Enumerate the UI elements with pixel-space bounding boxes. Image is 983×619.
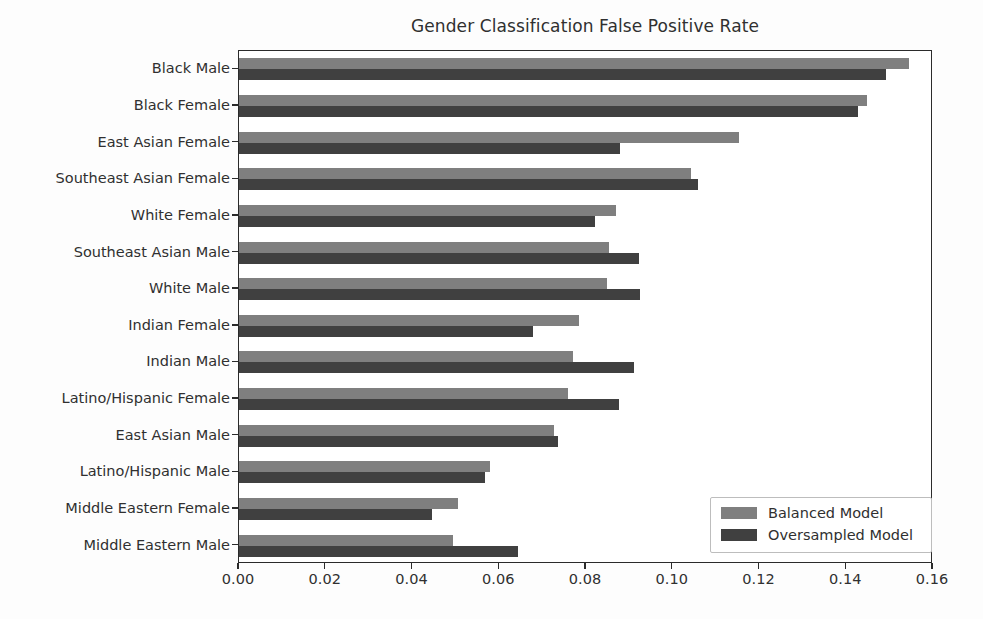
bar	[239, 509, 432, 520]
bar-group	[239, 95, 931, 117]
bar	[239, 69, 886, 80]
bar-group	[239, 388, 931, 410]
bar	[239, 289, 640, 300]
bar-group	[239, 242, 931, 264]
bar	[239, 498, 458, 509]
bar	[239, 535, 453, 546]
legend-item: Oversampled Model	[721, 524, 913, 546]
bar	[239, 278, 607, 289]
legend-swatch-icon	[721, 529, 757, 541]
bar-group	[239, 278, 931, 300]
bar	[239, 436, 558, 447]
x-axis-tick-mark	[758, 563, 759, 569]
plot-area	[238, 50, 932, 563]
x-axis-tick-mark	[237, 563, 238, 569]
x-axis-tick-mark	[671, 563, 672, 569]
x-axis-tick-mark	[584, 563, 585, 569]
bar	[239, 58, 909, 69]
bar-group	[239, 132, 931, 154]
bar	[239, 216, 595, 227]
bar	[239, 351, 573, 362]
x-axis-tick-label: 0.14	[829, 571, 861, 587]
y-axis-tick-marks	[0, 50, 238, 563]
bar-group	[239, 315, 931, 337]
x-axis-tick-mark	[845, 563, 846, 569]
legend-item-label: Balanced Model	[768, 505, 883, 521]
bar	[239, 388, 568, 399]
x-axis-tick-label: 0.06	[482, 571, 514, 587]
bar-group	[239, 58, 931, 80]
bar	[239, 242, 609, 253]
legend-item-label: Oversampled Model	[768, 527, 913, 543]
chart-figure: Gender Classification False Positive Rat…	[0, 0, 983, 619]
legend-item: Balanced Model	[721, 502, 883, 524]
x-axis-tick-labels: 0.000.020.040.060.080.100.120.140.16	[238, 571, 932, 595]
bar	[239, 132, 739, 143]
chart-title: Gender Classification False Positive Rat…	[238, 16, 932, 36]
x-axis-tick-label: 0.00	[222, 571, 254, 587]
bar	[239, 425, 554, 436]
bars-layer	[239, 51, 931, 562]
bar	[239, 472, 485, 483]
bar	[239, 95, 867, 106]
bar-group	[239, 168, 931, 190]
bar	[239, 315, 579, 326]
x-axis-tick-mark	[411, 563, 412, 569]
bar-group	[239, 461, 931, 483]
bar	[239, 546, 518, 557]
bar	[239, 205, 616, 216]
x-axis-tick-label: 0.12	[742, 571, 774, 587]
x-axis-tick-label: 0.08	[569, 571, 601, 587]
bar-group	[239, 425, 931, 447]
x-axis-tick-mark	[324, 563, 325, 569]
legend-swatch-icon	[721, 507, 757, 519]
bar	[239, 106, 858, 117]
bar	[239, 253, 639, 264]
x-axis-tick-label: 0.10	[656, 571, 688, 587]
x-axis-tick-label: 0.02	[309, 571, 341, 587]
bar	[239, 461, 490, 472]
x-axis-tick-label: 0.16	[916, 571, 948, 587]
x-axis-tick-label: 0.04	[395, 571, 427, 587]
bar	[239, 326, 533, 337]
chart-legend: Balanced ModelOversampled Model	[710, 497, 932, 553]
bar	[239, 143, 620, 154]
x-axis-tick-marks	[238, 563, 932, 570]
bar-group	[239, 351, 931, 373]
bar	[239, 179, 698, 190]
bar-group	[239, 205, 931, 227]
bar	[239, 399, 619, 410]
x-axis-tick-mark	[931, 563, 932, 569]
bar	[239, 168, 691, 179]
x-axis-tick-mark	[498, 563, 499, 569]
bar	[239, 362, 634, 373]
